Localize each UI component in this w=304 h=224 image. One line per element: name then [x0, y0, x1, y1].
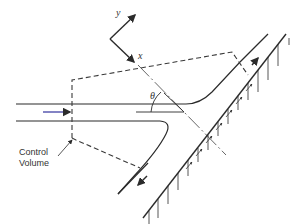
lower-outflow-arrow	[138, 176, 147, 185]
upper-sheet-line	[240, 34, 268, 62]
control-volume	[72, 52, 248, 168]
jet-lower-curve	[118, 121, 168, 194]
incoming-jet	[16, 62, 240, 194]
plate-parallel-guide	[164, 93, 184, 112]
control-volume-label-line2: Volume	[19, 158, 69, 169]
cv-top-edge	[72, 52, 248, 138]
coordinate-axes	[110, 15, 135, 62]
x-axis-label: x	[138, 51, 142, 61]
control-volume-label: Control Volume	[19, 147, 69, 169]
inclined-plate	[143, 34, 289, 224]
upper-outflow-arrow	[252, 58, 258, 65]
angle-construction	[136, 92, 184, 112]
lower-sheet-line	[118, 163, 148, 194]
x-axis-arrow	[110, 39, 134, 62]
theta-label: θ	[150, 91, 155, 101]
plate-surface	[143, 34, 286, 218]
control-volume-label-line1: Control	[19, 147, 69, 158]
cv-bottom-edge	[72, 138, 140, 168]
jet-plate-diagram	[0, 0, 304, 224]
y-axis-label: y	[116, 8, 120, 18]
jet-upper-curve	[186, 62, 240, 104]
y-axis-arrow	[110, 15, 135, 39]
